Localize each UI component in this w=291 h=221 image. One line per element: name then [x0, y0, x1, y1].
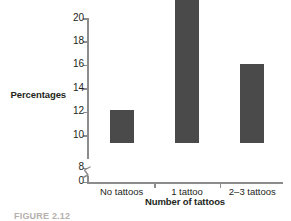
y-tick-label: 14 — [73, 82, 84, 94]
axis-break-icon — [82, 164, 98, 180]
y-tick-label: 0 — [78, 175, 84, 187]
x-axis-label: Number of tattoos — [87, 196, 283, 207]
y-tick-label: 16 — [73, 58, 84, 70]
y-tick-label: 20 — [73, 12, 84, 24]
y-tick-label: 10 — [73, 129, 84, 141]
y-tick-label: 18 — [73, 35, 84, 47]
bar — [175, 0, 199, 143]
bar — [110, 110, 134, 142]
y-axis-label: Percentages — [4, 89, 66, 100]
bar — [240, 64, 264, 142]
plot-area: 08101214161820 No tattoos1 tattoo2–3 tat… — [87, 14, 283, 182]
figure-caption: FIGURE 2.12 — [14, 211, 70, 221]
figure-bar-chart: Percentages 08101214161820 No tattoos1 t… — [0, 0, 291, 221]
y-tick-label: 12 — [73, 105, 84, 117]
x-axis-line — [87, 182, 283, 184]
y-tick-label: 8 — [78, 161, 84, 173]
